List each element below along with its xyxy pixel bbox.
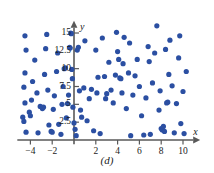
- data-point: [127, 40, 132, 45]
- data-point: [176, 55, 181, 60]
- data-point: [102, 74, 107, 79]
- data-point: [72, 127, 77, 132]
- data-point: [81, 85, 86, 90]
- data-point: [118, 76, 123, 81]
- data-point: [22, 33, 27, 38]
- data-point: [137, 84, 142, 89]
- data-point: [165, 100, 170, 105]
- data-point: [166, 72, 171, 77]
- data-point: [89, 87, 94, 92]
- data-point: [70, 105, 75, 110]
- data-point: [147, 59, 152, 64]
- data-point: [113, 72, 118, 77]
- data-point: [28, 113, 33, 118]
- y-tick-label: 15: [38, 28, 71, 38]
- x-axis: [17, 137, 200, 144]
- y-axis: [71, 21, 78, 145]
- data-point: [87, 96, 92, 101]
- data-point: [95, 75, 100, 80]
- data-point: [93, 48, 98, 53]
- data-point: [104, 91, 109, 96]
- data-point: [115, 49, 120, 54]
- data-point: [82, 38, 87, 43]
- data-point: [78, 107, 83, 112]
- data-point: [106, 60, 111, 65]
- data-point: [172, 130, 177, 135]
- data-point: [50, 130, 55, 135]
- data-point: [122, 35, 127, 40]
- data-point: [130, 92, 135, 97]
- data-point: [141, 132, 146, 137]
- data-point: [167, 38, 172, 43]
- data-point: [116, 57, 121, 62]
- data-point: [98, 131, 103, 136]
- data-point: [135, 57, 140, 62]
- data-point: [32, 58, 37, 63]
- data-point: [21, 119, 26, 124]
- data-point: [139, 113, 144, 118]
- data-point: [120, 61, 125, 66]
- data-point: [170, 83, 175, 88]
- data-point: [21, 85, 26, 90]
- data-point: [178, 121, 183, 126]
- data-point: [23, 130, 28, 135]
- data-point: [100, 35, 105, 40]
- figure-caption: (d): [0, 155, 214, 166]
- data-point: [148, 132, 153, 137]
- y-tick-label: 12.5: [38, 46, 71, 56]
- data-point: [158, 88, 163, 93]
- y-tick-label: 2.5: [38, 117, 71, 127]
- data-point: [180, 89, 185, 94]
- data-point: [162, 129, 167, 134]
- y-tick-label: 5: [38, 99, 71, 109]
- data-point: [22, 70, 27, 75]
- data-point: [35, 130, 40, 135]
- data-point: [79, 115, 84, 120]
- data-point: [114, 30, 119, 35]
- data-point: [143, 95, 148, 100]
- data-point: [111, 100, 116, 105]
- data-point: [30, 79, 35, 84]
- data-point: [161, 124, 166, 129]
- y-tick-label: 7.5: [38, 82, 71, 92]
- data-point: [94, 90, 99, 95]
- data-point: [154, 23, 159, 28]
- data-point: [177, 33, 182, 38]
- data-point: [76, 45, 81, 50]
- y-axis-label: y: [80, 22, 84, 32]
- x-axis-label: x: [193, 127, 197, 137]
- data-point: [146, 44, 151, 49]
- data-point: [108, 87, 113, 92]
- data-point: [66, 92, 71, 97]
- data-point: [103, 96, 108, 101]
- data-point: [84, 118, 89, 123]
- data-point: [128, 133, 133, 138]
- data-point: [22, 100, 27, 105]
- y-tick-label: 10: [38, 64, 71, 74]
- data-point: [174, 101, 179, 106]
- data-point: [119, 90, 124, 95]
- data-point: [23, 48, 28, 53]
- data-point: [184, 69, 189, 74]
- data-point: [150, 80, 155, 85]
- data-point: [71, 120, 76, 125]
- data-point: [163, 47, 168, 52]
- data-point: [74, 133, 79, 138]
- data-point: [152, 50, 157, 55]
- data-point: [124, 106, 129, 111]
- data-point: [132, 73, 137, 78]
- scatter-plot-figure: −4−22468102.557.51012.515xy (d): [0, 0, 214, 173]
- data-point: [34, 90, 39, 95]
- data-point: [91, 128, 96, 133]
- data-point: [52, 93, 57, 98]
- data-point: [126, 70, 131, 75]
- data-point: [58, 132, 63, 137]
- data-point: [181, 131, 186, 136]
- data-point: [156, 107, 161, 112]
- data-point: [29, 97, 34, 102]
- data-point: [77, 88, 82, 93]
